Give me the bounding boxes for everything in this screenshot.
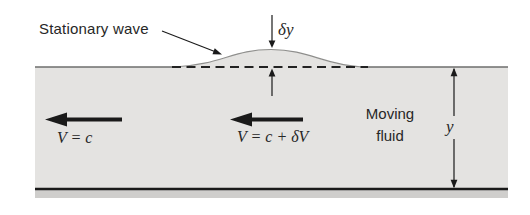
wave-bump — [175, 50, 362, 68]
velocity-right-label: V = c + δV — [237, 128, 308, 146]
depth-label: y — [446, 117, 454, 137]
wave-diagram: Stationary wave δy V = c V = c + δV Movi… — [0, 0, 530, 215]
channel-bed-strip — [35, 189, 508, 198]
delta-y-label: δy — [278, 20, 293, 40]
delta-y-down-arrowhead-icon — [269, 41, 276, 49]
stationary-wave-leader-arrowhead-icon — [212, 48, 223, 57]
moving-fluid-label: Moving fluid — [350, 103, 430, 147]
stationary-wave-label: Stationary wave — [39, 20, 149, 37]
moving-fluid-label-line1: Moving — [350, 103, 430, 125]
stationary-wave-leader-line — [162, 31, 216, 52]
velocity-left-label: V = c — [57, 129, 92, 147]
moving-fluid-label-line2: fluid — [350, 125, 430, 147]
